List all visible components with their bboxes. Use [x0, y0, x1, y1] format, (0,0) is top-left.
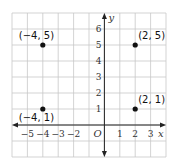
- x-axis-right-arrow-icon: [160, 123, 166, 128]
- x-axis-left-arrow-icon: [12, 123, 18, 128]
- x-tick-label: −3: [52, 129, 66, 139]
- coordinate-plane: yxO−5−4−3−2123123456 (−4, 5)(2, 5)(−4, 1…: [0, 0, 173, 163]
- data-point: [133, 106, 138, 111]
- x-tick-label: 3: [148, 129, 154, 139]
- data-point: [40, 42, 45, 47]
- origin-label: O: [93, 128, 101, 139]
- y-tick-label: 4: [96, 56, 102, 66]
- x-tick-label: 2: [132, 129, 138, 139]
- x-tick-label: −4: [36, 129, 50, 139]
- data-point: [133, 42, 138, 47]
- y-axis-down-arrow-icon: [102, 151, 107, 157]
- x-tick-label: −2: [67, 129, 80, 139]
- y-tick-label: 2: [96, 88, 102, 98]
- x-tick-label: 1: [117, 129, 123, 139]
- y-axis-label: y: [107, 12, 114, 23]
- y-tick-label: 3: [96, 72, 102, 82]
- y-axis-up-arrow-icon: [102, 13, 107, 19]
- y-tick-label: 5: [96, 40, 102, 50]
- point-label: (2, 5): [138, 30, 165, 41]
- y-tick-label: 1: [96, 104, 102, 114]
- point-label: (2, 1): [138, 94, 165, 105]
- x-tick-label: −5: [21, 129, 35, 139]
- point-label: (−4, 5): [19, 30, 54, 41]
- y-tick-label: 6: [96, 24, 102, 34]
- point-label: (−4, 1): [19, 112, 54, 123]
- x-axis-label: x: [158, 128, 164, 139]
- data-point: [40, 106, 45, 111]
